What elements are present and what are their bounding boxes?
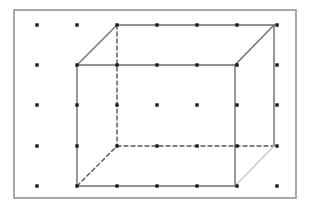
dot-lattice-cube-figure [0,0,311,212]
lattice-dot-r3-c0 [35,144,38,147]
lattice-dot-r0-c3 [155,23,158,26]
lattice-dot-r4-c0 [35,184,38,187]
lattice-dot-r4-c6 [275,184,278,187]
lattice-dot-r0-c2 [115,23,118,26]
lattice-dot-r2-c1 [75,103,78,106]
lattice-dot-r1-c1 [75,63,78,66]
lattice-dot-r1-c6 [275,63,278,66]
lattice-dot-r1-c0 [35,63,38,66]
lattice-dot-r3-c3 [155,144,158,147]
lattice-dot-r0-c5 [235,23,238,26]
lattice-dot-r3-c4 [195,144,198,147]
lattice-dot-r1-c2 [115,63,118,66]
lattice-dot-r3-c1 [75,144,78,147]
lattice-dot-r0-c0 [35,23,38,26]
outer-border [14,10,296,198]
lattice-dot-r0-c4 [195,23,198,26]
lattice-dot-r3-c2 [115,144,118,147]
lattice-dot-r1-c4 [195,63,198,66]
lattice-dot-r4-c2 [115,184,118,187]
lattice-dot-r2-c6 [275,103,278,106]
lattice-dot-r3-c5 [235,144,238,147]
lattice-dot-r2-c2 [115,103,118,106]
lattice-dot-r0-c6 [275,23,278,26]
lattice-dot-r1-c3 [155,63,158,66]
lattice-dot-r4-c4 [195,184,198,187]
figure-root [0,0,311,212]
outer-border-layer [14,10,296,198]
lattice-dot-r4-c3 [155,184,158,187]
lattice-dot-r0-c1 [75,23,78,26]
lattice-dot-r3-c6 [275,144,278,147]
lattice-dot-r2-c0 [35,103,38,106]
lattice-dot-r4-c5 [235,184,238,187]
lattice-dot-r2-c4 [195,103,198,106]
lattice-dot-r1-c5 [235,63,238,66]
lattice-dot-r2-c5 [235,103,238,106]
lattice-dot-r4-c1 [75,184,78,187]
lattice-dot-r2-c3 [155,103,158,106]
